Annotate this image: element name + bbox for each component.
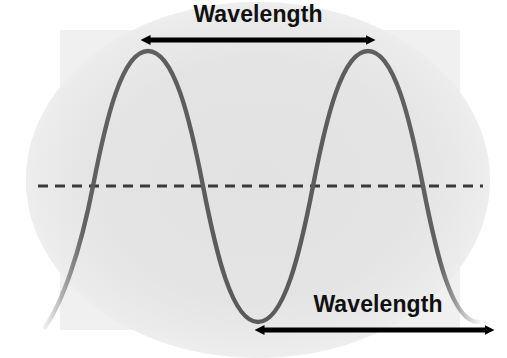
bottom-wavelength-label: Wavelength <box>313 291 442 317</box>
wavelength-diagram: Wavelength Wavelength <box>0 0 507 358</box>
top-wavelength-label: Wavelength <box>193 1 322 27</box>
